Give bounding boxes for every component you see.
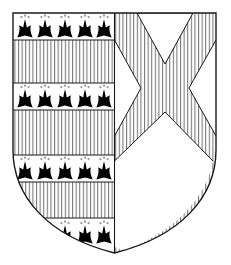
hatched-bar-2 [13,110,115,155]
coat-of-arms [0,0,231,265]
sinister-half [114,13,217,254]
dexter-half [13,15,115,244]
hatched-bar-1 [13,40,115,83]
escutcheon-shield [0,0,231,265]
